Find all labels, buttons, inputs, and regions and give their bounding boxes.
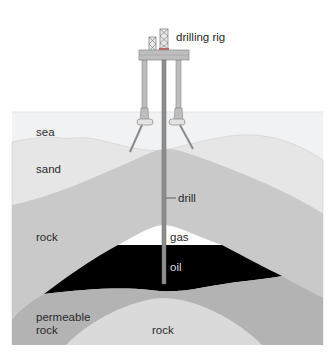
label-rock-upper: rock [36, 231, 58, 243]
oil-drilling-diagram: drilling rig sea sand drill rock gas oil… [0, 0, 329, 354]
label-sea: sea [36, 126, 55, 138]
derrick-icon [149, 29, 169, 51]
cross-section-graphic [0, 0, 329, 354]
label-oil: oil [170, 261, 182, 273]
label-rock-lower: rock [152, 324, 174, 336]
drill-pipe [162, 60, 166, 284]
label-drill: drill [178, 192, 196, 204]
label-permeable-rock-1: permeable [36, 311, 90, 323]
label-gas: gas [170, 231, 189, 243]
label-drilling-rig: drilling rig [176, 31, 225, 43]
label-permeable-rock-2: rock [36, 324, 58, 336]
label-sand: sand [36, 163, 61, 175]
